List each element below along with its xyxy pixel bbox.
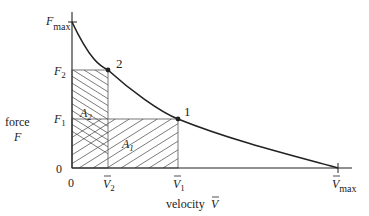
hatch-line bbox=[172, 70, 329, 168]
svg-text:V2: V2 bbox=[103, 177, 115, 193]
y-axis-symbol: F bbox=[13, 130, 22, 144]
hatch-line bbox=[205, 119, 283, 168]
hatch-line bbox=[183, 70, 340, 168]
x-origin-label: 0 bbox=[68, 176, 74, 190]
f1-label: F1 bbox=[53, 112, 66, 128]
x-axis-symbol: V bbox=[211, 197, 220, 211]
point-1-label: 1 bbox=[184, 104, 191, 119]
v1-label: V1 bbox=[173, 176, 185, 193]
point-2-label: 2 bbox=[116, 56, 123, 71]
svg-text:Vmax: Vmax bbox=[332, 177, 357, 194]
hatch-line bbox=[161, 70, 318, 168]
f2-label: F2 bbox=[53, 64, 66, 80]
svg-text:V: V bbox=[211, 197, 220, 211]
vmax-label: Vmax bbox=[332, 176, 357, 194]
v2-label: V2 bbox=[103, 176, 115, 193]
force-velocity-curve bbox=[72, 22, 338, 168]
y-axis-title: force bbox=[5, 115, 30, 129]
hatch-line bbox=[219, 119, 297, 168]
x-axis-title: velocity bbox=[166, 197, 205, 211]
svg-text:V1: V1 bbox=[173, 177, 185, 193]
point-1 bbox=[176, 117, 181, 122]
area-a1-label: A1 bbox=[121, 137, 134, 153]
y-origin-label: 0 bbox=[56, 162, 62, 176]
hatch-line bbox=[177, 119, 255, 168]
hatch-line bbox=[191, 119, 269, 168]
point-2 bbox=[106, 68, 111, 73]
fmax-label: Fmax bbox=[45, 14, 71, 32]
hatch-line bbox=[194, 70, 351, 168]
force-velocity-diagram: 2 1 A2 A1 Fmax F2 F1 0 force F 0 V2 V1 V… bbox=[0, 0, 369, 216]
